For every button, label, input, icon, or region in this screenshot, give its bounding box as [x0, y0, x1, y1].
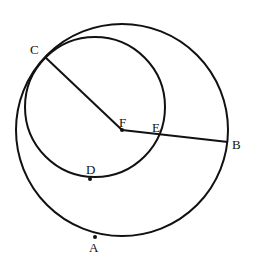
label-e: E [152, 120, 160, 135]
label-b: B [232, 137, 241, 152]
label-d: D [86, 162, 95, 177]
point-a [93, 235, 97, 239]
diagram-svg: C F E B D A [0, 0, 259, 269]
segment-fb [122, 130, 228, 142]
label-f: F [119, 115, 126, 130]
point-d [88, 177, 92, 181]
label-c: C [30, 42, 39, 57]
segment-cf [45, 57, 122, 130]
label-a: A [89, 240, 99, 255]
geometry-diagram: C F E B D A [0, 0, 259, 269]
